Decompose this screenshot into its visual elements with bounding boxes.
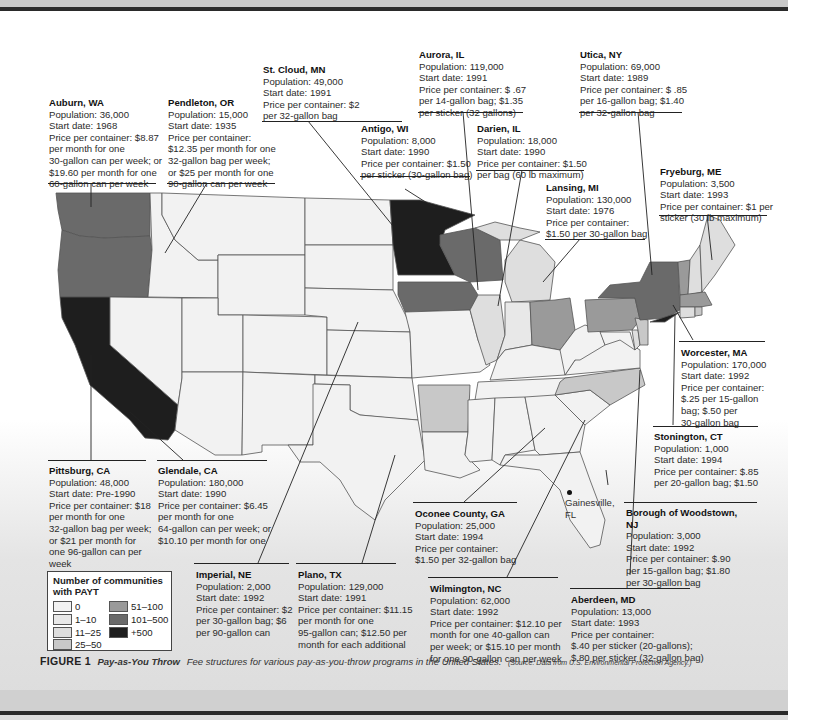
state-me bbox=[700, 215, 735, 292]
rule-aberdeen bbox=[570, 588, 690, 589]
state-wy bbox=[218, 255, 305, 315]
callout-antigo-wi: Antigo, WI Population: 8,000Start date: … bbox=[361, 123, 472, 181]
legend-title: Number of communities with PAYT bbox=[53, 575, 171, 597]
legend-swatch bbox=[53, 614, 72, 625]
state-mi-lp bbox=[505, 240, 555, 302]
state-ms bbox=[465, 398, 495, 462]
legend-item-500-plus: +500 bbox=[109, 627, 153, 638]
callout-utica-ny: Utica, NY Population: 69,000Start date: … bbox=[580, 49, 687, 119]
callout-lansing-mi: Lansing, MI Population: 130,000Start dat… bbox=[546, 182, 647, 240]
legend-item-25-50: 25–50 bbox=[53, 639, 102, 650]
rule-antigo bbox=[360, 176, 470, 177]
callout-darien-il: Darien, IL Population: 18,000Start date:… bbox=[477, 123, 587, 181]
callout-imperial-ne: Imperial, NE Population: 2,000Start date… bbox=[196, 569, 293, 639]
legend-item-11-25: 11–25 bbox=[53, 627, 101, 638]
bottom-rule bbox=[0, 711, 788, 715]
state-nh bbox=[688, 245, 702, 295]
callout-stonington-ct: Stonington, CT Population: 1,000Start da… bbox=[654, 431, 759, 489]
callout-worcester-ma: Worcester, MA Population: 170,000Start d… bbox=[681, 347, 766, 428]
state-or bbox=[58, 230, 152, 297]
callout-woodstown-nj: Borough of Woodstown, NJ Population: 3,0… bbox=[626, 507, 737, 588]
callout-pendleton-or: Pendleton, OR Population: 15,000Start da… bbox=[168, 97, 276, 190]
state-pa bbox=[585, 298, 640, 332]
rule-utica bbox=[579, 112, 682, 113]
legend-swatch bbox=[109, 627, 128, 638]
legend-swatch bbox=[53, 601, 72, 612]
figure-description: Fee structures for various pay-as-you-th… bbox=[187, 656, 502, 667]
rule-woodstown bbox=[624, 502, 757, 503]
callout-plano-tx: Plano, TX Population: 129,000Start date:… bbox=[298, 569, 412, 650]
state-co bbox=[243, 315, 327, 375]
rule-stonington bbox=[653, 426, 758, 427]
rule-aurora bbox=[418, 112, 523, 113]
figure-caption: FIGURE 1 Pay-as-You Throw Fee structures… bbox=[40, 655, 692, 667]
bottom-band bbox=[0, 690, 788, 712]
callout-aurora-il: Aurora, IL Population: 119,000Start date… bbox=[419, 49, 526, 119]
state-wa bbox=[56, 193, 150, 238]
rule-imperial bbox=[194, 563, 289, 564]
state-nm bbox=[242, 372, 315, 455]
rule-plano bbox=[296, 563, 396, 564]
rule-auburn bbox=[48, 183, 156, 184]
rule-glendale bbox=[157, 460, 267, 461]
legend-swatch bbox=[109, 601, 128, 612]
figure-source: (Source: Data from U.S. Environmental Pr… bbox=[508, 659, 692, 666]
rule-pittsburg bbox=[48, 460, 146, 461]
legend-swatch bbox=[53, 639, 72, 650]
state-az bbox=[175, 372, 243, 455]
callout-oconee-ga: Oconee County, GA Population: 25,000Star… bbox=[415, 508, 516, 566]
state-ri bbox=[695, 307, 702, 316]
state-ma bbox=[680, 292, 712, 307]
callout-pittsburg-ca: Pittsburg, CA Population: 48,000Start da… bbox=[49, 465, 151, 569]
right-margin bbox=[788, 0, 819, 720]
map-legend: Number of communities with PAYT 0 1–10 1… bbox=[47, 571, 172, 651]
legend-swatch bbox=[53, 627, 72, 638]
rule-pendleton bbox=[167, 183, 275, 184]
callout-st-cloud-mn: St. Cloud, MN Population: 49,000Start da… bbox=[263, 64, 360, 122]
legend-item-51-100: 51–100 bbox=[109, 601, 163, 612]
legend-swatch bbox=[109, 614, 128, 625]
callout-auburn-wa: Auburn, WA Population: 36,000Start date:… bbox=[49, 97, 162, 190]
figure-title: Pay-as-You Throw bbox=[97, 656, 180, 667]
rule-wilmington bbox=[428, 577, 558, 578]
callout-wilmington-nc: Wilmington, NC Population: 62,000Start d… bbox=[430, 583, 562, 664]
gainesville-marker bbox=[567, 490, 572, 495]
callout-aberdeen-md: Aberdeen, MD Population: 13,000Start dat… bbox=[571, 594, 704, 664]
state-ia bbox=[398, 282, 478, 312]
rule-oconee bbox=[413, 502, 517, 503]
state-ct bbox=[680, 307, 695, 318]
state-nd bbox=[305, 198, 393, 245]
callout-glendale-ca: Glendale, CA Population: 180,000Start da… bbox=[158, 465, 271, 546]
legend-item-1-10: 1–10 bbox=[53, 614, 96, 625]
gainesville-label: Gainesville, FL bbox=[565, 497, 615, 520]
state-ks bbox=[327, 330, 412, 378]
rule-fryeburg bbox=[659, 215, 767, 216]
rule-lansing bbox=[545, 239, 645, 240]
state-sd bbox=[305, 245, 393, 290]
rule-darien bbox=[476, 170, 584, 171]
legend-item-0: 0 bbox=[53, 601, 80, 612]
figure-page: Gainesville, FL Auburn, WA Population: 3… bbox=[0, 0, 788, 720]
legend-item-101-500: 101–500 bbox=[109, 614, 168, 625]
figure-label: FIGURE 1 bbox=[40, 655, 91, 667]
state-ar bbox=[418, 385, 470, 432]
rule-worcester bbox=[679, 341, 765, 342]
